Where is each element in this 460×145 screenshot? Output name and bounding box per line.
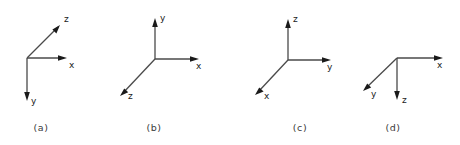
panel-b-axis-y-label: y bbox=[160, 13, 166, 23]
panel-a: x y z (a) bbox=[24, 14, 75, 133]
panel-c-axis-z-arrowhead bbox=[285, 19, 291, 28]
panel-b-caption: (b) bbox=[146, 122, 161, 133]
panel-a-axis-y-label: y bbox=[31, 96, 37, 106]
panel-c-axis-y-label: y bbox=[327, 62, 333, 72]
panel-c-axis-x-line bbox=[259, 60, 288, 91]
panel-d-caption: (d) bbox=[385, 122, 400, 133]
panel-a-axis-x-arrowhead bbox=[58, 55, 67, 61]
panel-c-caption: (c) bbox=[293, 122, 307, 133]
panel-b-axis-z-label: z bbox=[128, 91, 133, 101]
panel-c-axis-x-arrowhead bbox=[255, 87, 264, 95]
panel-b-axis-y-arrowhead bbox=[152, 18, 158, 27]
panel-c-axis-x-label: x bbox=[264, 91, 270, 101]
panel-a-caption: (a) bbox=[33, 122, 48, 133]
coordinate-systems-figure: x y z (a) y x z (b) z y x (c) bbox=[0, 0, 460, 145]
panel-b-axis-x-label: x bbox=[196, 61, 202, 71]
panel-d-axis-z-label: z bbox=[402, 95, 407, 105]
panel-b-axis-z-line bbox=[123, 59, 155, 93]
panel-d-axis-y-label: y bbox=[371, 89, 377, 99]
panel-a-axis-z-line bbox=[27, 27, 58, 58]
panel-c-axis-z-label: z bbox=[293, 14, 298, 24]
panel-a-axis-x-label: x bbox=[69, 60, 75, 70]
panel-d-axis-y-line bbox=[366, 58, 397, 88]
panel-c: z y x (c) bbox=[255, 14, 333, 133]
panel-d-axis-z-arrowhead bbox=[394, 91, 400, 100]
panel-a-axis-y-arrowhead bbox=[24, 92, 30, 101]
panel-d-axis-x-label: x bbox=[437, 60, 443, 70]
panel-d: x z y (d) bbox=[363, 55, 443, 133]
panel-b: y x z (b) bbox=[120, 13, 202, 133]
panel-a-axis-z-label: z bbox=[64, 14, 69, 24]
